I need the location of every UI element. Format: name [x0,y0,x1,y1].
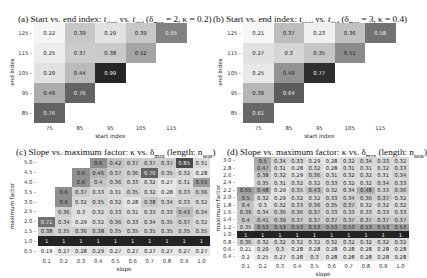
heatmap-cell: 0.6 [55,197,72,207]
heatmap-cell: 0.37 [323,216,340,223]
heatmap-cell: 0.37 [274,23,305,43]
heatmap-cell: 0.32 [72,197,89,207]
y-tick-label: 0.8 - [215,239,235,245]
heatmap-cell: 0.28 [392,246,409,253]
heatmap-cell: 0.33 [124,178,141,188]
heatmap-cell: 1 [72,236,89,246]
heatmap-cell: 0.76 [65,83,96,103]
heatmap-cell: 0.32 [357,179,374,186]
x-tick-label: 0.7 [141,258,158,264]
heatmap-cell: 0.35 [289,187,306,194]
heatmap-cell: 1 [237,231,254,238]
heatmap-cell: 0.4 [90,178,107,188]
heatmap-cell: 0.32 [340,238,357,245]
heatmap-cell: 0.25 [254,253,271,260]
heatmap-cell: 0.33 [323,194,340,201]
heatmap-cell: 0.37 [392,216,409,223]
heatmap-cell: 0.42 [107,158,124,168]
y-tick-label: 1.0 - [16,238,36,244]
heatmap-cell: 0.32 [254,238,271,245]
heatmap-cell: 0.53 [357,224,374,231]
heatmap-cell: 0.37 [289,216,306,223]
heatmap-cell: 0.36 [289,209,306,216]
heatmap-cell: 0.33 [176,197,193,207]
y-tick-label: 0.5 - [16,248,36,254]
y-tick-label: 0.6 - [215,246,235,252]
heatmap-cell: 0.32 [193,197,210,207]
heatmap-cell: 0.76 [34,103,65,123]
heatmap-cell: 0.34 [193,207,210,217]
heatmap-cell: 0.6 [55,187,72,197]
heatmap-cell: 0.21 [237,246,254,253]
heatmap-cell: 0.48 [254,187,271,194]
heatmap-cell: 0.31 [271,179,288,186]
heatmap-cell: 0.32 [176,168,193,178]
heatmap-cell: 0.32 [340,179,357,186]
heatmap-cell: 0.32 [392,201,409,208]
heatmap-cell: 0.3 [271,246,288,253]
heatmap-cell: 0.33 [357,209,374,216]
heatmap-cell: 0.43 [306,187,323,194]
heatmap-cell: 0.43 [176,207,193,217]
heatmap-cell: 0.28 [72,246,89,256]
heatmap-cell: 0.39 [271,216,288,223]
heatmap-cell: 0.37 [141,158,158,168]
x-tick-label: 0.4 [90,258,107,264]
heatmap-cell: 0.38 [141,197,158,207]
heatmap-cell: 0.4 [237,216,254,223]
heatmap-cell: 0.37 [158,158,175,168]
heatmap-cell: 0.53 [254,224,271,231]
heatmap-cell: 0.32 [392,238,409,245]
heatmap-cell: 0.28 [289,253,306,260]
x-tick-label: 0.1 [237,263,254,269]
x-axis-label: slope [303,271,343,277]
x-tick-label: 0.8 [158,258,175,264]
heatmap-cell: 1 [55,236,72,246]
heatmap-cell: 1 [357,231,374,238]
x-tick-label: 115 [365,125,396,131]
heatmap-cell: 0.29 [289,172,306,179]
heatmap-cell: 0.31 [323,172,340,179]
heatmap-cell: 0.32 [193,217,210,227]
heatmap-cell: 0.34 [141,217,158,227]
heatmap-cell: 0.52 [126,43,157,63]
heatmap-cell: 0.37 [340,216,357,223]
x-tick-label: 105 [335,125,366,131]
heatmap-cell: 0.23 [304,23,335,43]
heatmap-cell: 0.29 [34,63,65,83]
x-axis-label: slope [104,266,144,272]
heatmap-cell: 0.36 [72,227,89,237]
heatmap-cell: 0.35 [107,227,124,237]
heatmap-cell: 0.38 [90,227,107,237]
x-tick-label: 0.2 [55,258,72,264]
heatmap-cell: 0.46 [90,168,107,178]
heatmap-cell: 0.32 [323,238,340,245]
heatmap-cell: 0.32 [107,197,124,207]
heatmap-cell: 1 [193,236,210,246]
heatmap-cell: 0.37 [124,158,141,168]
heatmap-cell: 0.27 [271,253,288,260]
heatmap-cell: 0.37 [375,194,392,201]
x-tick-label: 75 [243,125,274,131]
heatmap-cell: 0.33 [90,187,107,197]
heatmap-cell: 0.28 [357,246,374,253]
x-axis-label: start index [90,133,130,139]
heatmap-cell: 0.38 [95,43,126,63]
heatmap-cell: 0.29 [306,157,323,164]
heatmap-cell: 0.36 [193,187,210,197]
heatmap-cell: 0.34 [271,157,288,164]
heatmap-cell: 0.37 [375,216,392,223]
heatmap-cell: 0.27 [158,246,175,256]
heatmap-cell: 0.33 [392,179,409,186]
y-tick-label: 3.0 - [215,157,235,163]
heatmap-cell: 0.28 [124,197,141,207]
heatmap-cell: 0.32 [306,194,323,201]
heatmap-cell: 0.53 [323,224,340,231]
heatmap-cell: 0.39 [65,23,96,43]
heatmap-cell: 0.32 [306,179,323,186]
heatmap-cell: 0.49 [34,83,65,103]
heatmap-cell: 0.32 [392,157,409,164]
x-tick-label: 95 [95,125,126,131]
heatmap-cell: 0.37 [306,216,323,223]
x-tick-label: 0.6 [323,263,340,269]
